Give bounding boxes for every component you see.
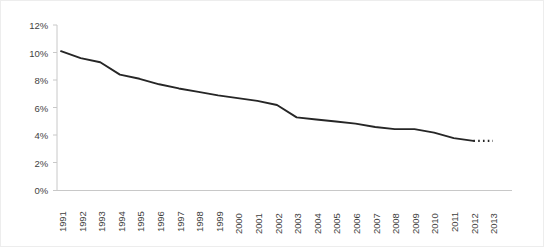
plot-area	[0, 0, 544, 247]
data-line-actual	[61, 51, 473, 141]
line-chart: 12% 10% 8% 6% 4% 2% 0% 1991 1992 1993 19…	[0, 0, 544, 247]
y-axis-ticks	[53, 25, 57, 191]
